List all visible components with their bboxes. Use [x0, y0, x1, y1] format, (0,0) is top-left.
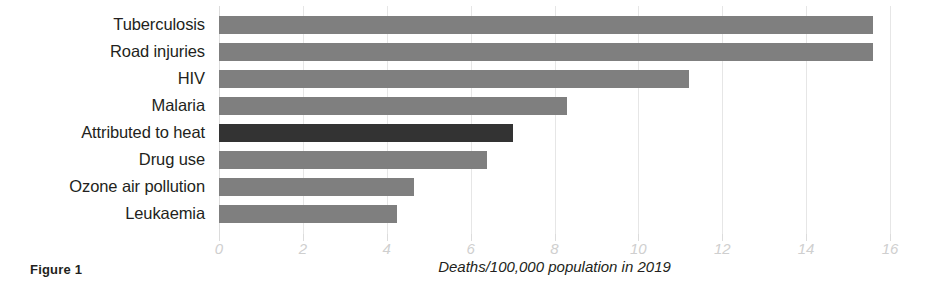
x-tick-label-6: 6: [451, 240, 491, 257]
figure-caption: Figure 1: [30, 262, 82, 277]
bar-drug-use: [219, 151, 487, 169]
category-label-attributed-to-heat: Attributed to heat: [0, 123, 205, 142]
bar-ozone-air-pollution: [219, 178, 414, 196]
category-label-ozone-air-pollution: Ozone air pollution: [0, 177, 205, 196]
x-tick-label-12: 12: [702, 240, 742, 257]
bar-row: Road injuries: [0, 42, 931, 69]
category-label-tuberculosis: Tuberculosis: [0, 15, 205, 34]
bar-malaria: [219, 97, 567, 115]
category-label-road-injuries: Road injuries: [0, 42, 205, 61]
x-tick-label-8: 8: [535, 240, 575, 257]
x-tick-label-16: 16: [870, 240, 910, 257]
bar-tuberculosis: [219, 16, 873, 34]
bar-row: HIV: [0, 69, 931, 96]
bar-hiv: [219, 70, 689, 88]
bar-leukaemia: [219, 205, 397, 223]
x-tick-label-2: 2: [283, 240, 323, 257]
bar-row: Attributed to heat: [0, 123, 931, 150]
category-label-malaria: Malaria: [0, 96, 205, 115]
bar-row: Leukaemia: [0, 204, 931, 231]
x-tick-label-4: 4: [367, 240, 407, 257]
bar-chart: TuberculosisRoad injuriesHIVMalariaAttri…: [0, 0, 931, 240]
category-label-leukaemia: Leukaemia: [0, 204, 205, 223]
x-axis-title: Deaths/100,000 population in 2019: [219, 258, 890, 275]
bar-attributed-to-heat: [219, 124, 513, 142]
category-label-drug-use: Drug use: [0, 150, 205, 169]
bar-row: Ozone air pollution: [0, 177, 931, 204]
bar-row: Malaria: [0, 96, 931, 123]
bar-row: Drug use: [0, 150, 931, 177]
category-label-hiv: HIV: [0, 69, 205, 88]
x-tick-label-10: 10: [618, 240, 658, 257]
x-tick-label-0: 0: [199, 240, 239, 257]
bar-row: Tuberculosis: [0, 15, 931, 42]
figure-container: TuberculosisRoad injuriesHIVMalariaAttri…: [0, 0, 931, 299]
x-tick-label-14: 14: [786, 240, 826, 257]
bar-road-injuries: [219, 43, 873, 61]
